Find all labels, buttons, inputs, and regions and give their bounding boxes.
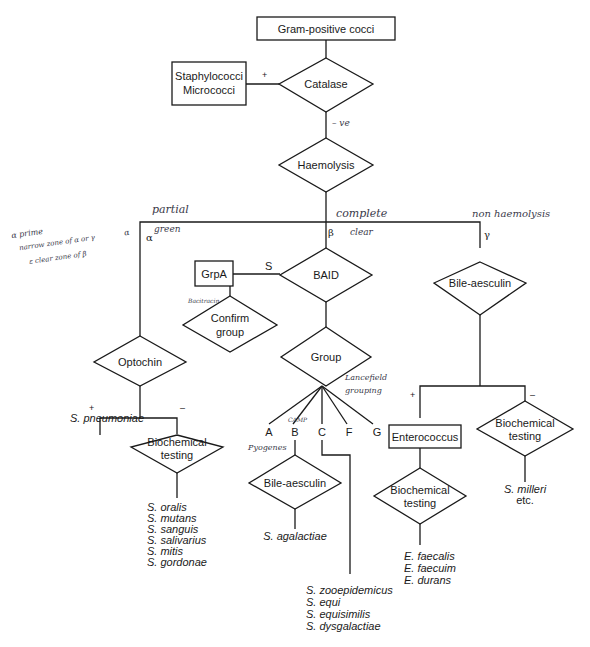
edge-label-baid-s: S bbox=[265, 260, 272, 272]
svg-text:α: α bbox=[123, 228, 130, 238]
label-grpa: GrpA bbox=[201, 268, 227, 280]
edge-label-catalase-positive: + bbox=[262, 70, 267, 80]
result-group-c-list: S. zooepidemicus S. equi S. equisimilis … bbox=[306, 584, 393, 632]
label-catalase: Catalase bbox=[304, 78, 347, 90]
group-label-a: A bbox=[265, 426, 273, 438]
group-label-f: F bbox=[346, 426, 353, 438]
label-group-word: group bbox=[216, 326, 244, 338]
label-baid: BAID bbox=[313, 269, 339, 281]
svg-text:ε clear zone of β: ε clear zone of β bbox=[29, 250, 87, 266]
edge-label-optochin-negative: – bbox=[180, 403, 185, 413]
edge-label-gamma: γ bbox=[484, 229, 490, 240]
label-haemolysis: Haemolysis bbox=[298, 159, 355, 171]
svg-text:α prime: α prime bbox=[11, 227, 44, 240]
note-pyogenes: Pyogenes bbox=[247, 443, 287, 452]
svg-text:S. gordonae: S. gordonae bbox=[147, 556, 207, 568]
edge-label-beta: β bbox=[328, 227, 334, 238]
edge-label-catalase-negative: – ve bbox=[332, 118, 350, 128]
label-biochemical-center-2: testing bbox=[404, 497, 436, 509]
label-group: Group bbox=[311, 351, 342, 363]
group-label-g: G bbox=[373, 426, 382, 438]
note-partial: partial bbox=[152, 203, 189, 216]
note-bacitracin: Bacitracin bbox=[187, 297, 219, 304]
group-label-b: B bbox=[291, 426, 298, 438]
label-optochin: Optochin bbox=[118, 356, 162, 368]
note-green: green bbox=[154, 224, 181, 234]
note-clear: clear bbox=[350, 227, 374, 237]
label-gram-positive-cocci: Gram-positive cocci bbox=[278, 23, 375, 35]
svg-text:E. faecuim: E. faecuim bbox=[404, 562, 456, 574]
edge-label-bile-positive: + bbox=[410, 390, 415, 400]
label-staphylococci: Staphylococci bbox=[175, 70, 243, 82]
note-complete: complete bbox=[336, 207, 388, 220]
note-grouping: grouping bbox=[345, 386, 382, 395]
note-non-haemolysis: non haemolysis bbox=[472, 208, 550, 219]
flowchart: Gram-positive cocci Staphylococci Microc… bbox=[0, 0, 590, 647]
label-bile-aesculin-right: Bile-aesculin bbox=[449, 277, 511, 289]
label-biochemical-right-2: testing bbox=[509, 430, 541, 442]
result-viridans-list: S. oralis S. mutans S. sanguis S. saliva… bbox=[147, 501, 207, 568]
svg-text:E. faecalis: E. faecalis bbox=[404, 550, 455, 562]
result-s-pneumoniae: S. pneumoniae bbox=[70, 412, 144, 424]
group-label-c: C bbox=[318, 426, 326, 438]
label-confirm: Confirm bbox=[211, 312, 250, 324]
node-biochemical-center bbox=[374, 468, 466, 524]
label-biochemical-left-2: testing bbox=[161, 449, 193, 461]
label-enterococcus: Enterococcus bbox=[392, 431, 459, 443]
label-biochemical-right-1: Biochemical bbox=[495, 417, 554, 429]
label-biochemical-left-1: Biochemical bbox=[147, 436, 206, 448]
svg-text:S. dysgalactiae: S. dysgalactiae bbox=[306, 620, 381, 632]
svg-text:E. durans: E. durans bbox=[404, 574, 452, 586]
result-etc: etc. bbox=[516, 494, 534, 506]
svg-text:S. equi: S. equi bbox=[306, 596, 341, 608]
svg-text:S. zooepidemicus: S. zooepidemicus bbox=[306, 584, 393, 596]
result-s-agalactiae: S. agalactiae bbox=[263, 530, 327, 542]
label-micrococci: Micrococci bbox=[183, 84, 235, 96]
result-enterococci-list: E. faecalis E. faecuim E. durans bbox=[404, 550, 456, 586]
node-confirm-group bbox=[183, 296, 277, 352]
label-bile-aesculin-center: Bile-aesculin bbox=[264, 477, 326, 489]
note-lancefield: Lancefield bbox=[344, 373, 387, 382]
note-camp: CAMP bbox=[288, 416, 308, 423]
edge-label-bile-negative: – bbox=[530, 390, 535, 400]
svg-text:S. equisimilis: S. equisimilis bbox=[306, 608, 371, 620]
note-haemolysis-definitions: α prime narrow zone of α or γ α ε clear … bbox=[11, 215, 133, 268]
label-biochemical-center-1: Biochemical bbox=[390, 484, 449, 496]
edge-label-alpha: α bbox=[146, 232, 153, 243]
